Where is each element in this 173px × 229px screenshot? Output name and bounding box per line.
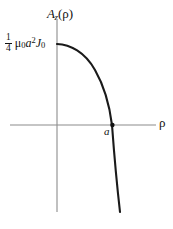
y-axis-max-value-label: 1 4 μ0a2J0 <box>5 33 45 54</box>
j-subscript: 0 <box>41 41 45 51</box>
y-axis-title: Az(ρ) <box>47 7 73 22</box>
mu-a-squared-j-expression: μ0a2J0 <box>15 36 46 50</box>
az-curve <box>57 44 120 212</box>
y-axis-title-paren-close: ) <box>69 6 73 21</box>
figure-container: Az(ρ) 1 4 μ0a2J0 ρ a <box>0 0 173 229</box>
fraction-numerator: 1 <box>5 33 12 43</box>
one-quarter-fraction: 1 4 <box>5 33 12 54</box>
fraction-denominator: 4 <box>5 43 12 54</box>
x-axis-title: ρ <box>159 116 166 129</box>
crossing-point-marker <box>110 123 114 127</box>
crossing-point-label: a <box>104 126 110 137</box>
